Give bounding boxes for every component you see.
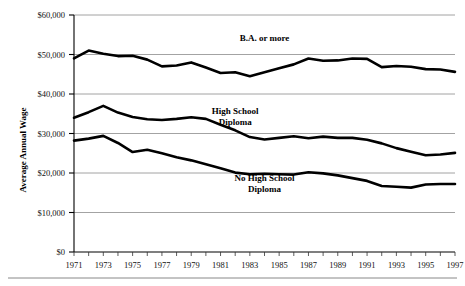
chart-canvas: $0$10,000$20,000$30,000$40,000$50,000$60… (0, 0, 465, 286)
series-annotation: No High School (234, 173, 295, 183)
x-axis-tick-marks (74, 252, 455, 256)
x-tick-label: 1995 (417, 260, 434, 270)
x-tick-label: 1981 (212, 260, 229, 270)
x-tick-label: 1977 (153, 260, 170, 270)
series-annotation: High School (212, 106, 259, 116)
x-tick-label: 1987 (300, 260, 317, 270)
x-tick-label: 1993 (388, 260, 405, 270)
y-tick-label: $60,000 (37, 10, 65, 20)
y-tick-label: $0 (57, 247, 66, 257)
y-tick-label: $20,000 (37, 168, 65, 178)
y-tick-label: $50,000 (37, 50, 65, 60)
wage-by-education-line-chart: $0$10,000$20,000$30,000$40,000$50,000$60… (0, 0, 465, 286)
gridlines-group (74, 15, 455, 252)
x-axis-tick-labels: 1971197319751977197919811983198519871989… (66, 260, 464, 270)
x-tick-label: 1997 (447, 260, 464, 270)
series-lines-group (74, 51, 455, 188)
y-tick-label: $40,000 (37, 89, 65, 99)
x-tick-label: 1989 (329, 260, 346, 270)
y-axis-tick-labels: $0$10,000$20,000$30,000$40,000$50,000$60… (37, 10, 74, 257)
x-tick-label: 1971 (66, 260, 83, 270)
x-tick-label: 1991 (359, 260, 376, 270)
y-tick-label: $30,000 (37, 129, 65, 139)
y-axis-title: Average Annual Wage (18, 107, 28, 192)
x-tick-label: 1985 (271, 260, 288, 270)
x-tick-label: 1979 (183, 260, 200, 270)
x-tick-label: 1975 (124, 260, 141, 270)
y-tick-label: $10,000 (37, 208, 65, 218)
series-annotation: Diploma (248, 184, 282, 194)
series-line (74, 106, 455, 155)
series-annotation: Diploma (219, 117, 253, 127)
x-tick-label: 1973 (95, 260, 112, 270)
x-tick-label: 1983 (241, 260, 258, 270)
series-annotation: B.A. or more (240, 33, 290, 43)
